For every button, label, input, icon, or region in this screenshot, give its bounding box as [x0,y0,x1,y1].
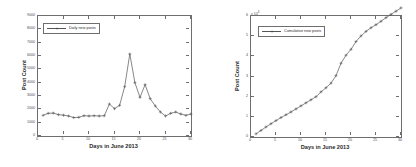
x-tick-label: 15 [112,137,116,141]
legend-cumulative[interactable]: + Cumulative new posts [258,26,325,37]
exponent-power: 4 [258,10,260,14]
y-tick-label: 0 [19,133,35,137]
y-axis-title-daily: Post Count [21,60,28,90]
legend-daily[interactable]: + Daily new posts [43,23,100,34]
legend-label-daily: Daily new posts [69,26,96,31]
x-tick-label: 10 [298,138,302,142]
chart-panel-cumulative-new-posts: 051015202530 0123456 x 104 Days in June … [208,0,416,167]
y-tick-label: 8000 [19,26,35,30]
x-tick-label: 25 [163,137,167,141]
y-tick-label: 1 [232,114,248,118]
x-tick-label: 25 [373,138,377,142]
exponent-base: x 10 [251,12,258,16]
legend-label-cumulative: Cumulative new posts [284,29,321,34]
y-tick-label: 2000 [19,106,35,110]
y-tick-label: 7000 [19,40,35,44]
y-tick-label: 6 [232,13,248,17]
x-tick-label: 5 [274,138,276,142]
y-tick-label: 1000 [19,120,35,124]
y-tick-label: 9000 [19,13,35,17]
x-axis-title-daily: Days in June 2013 [89,143,138,150]
x-tick-label: 20 [137,137,141,141]
y-tick-label: 3000 [19,93,35,97]
series-line-daily [38,16,191,136]
x-tick-label: 5 [62,137,64,141]
y-axis-title-cumulative: Post Count [234,61,241,91]
x-axis-title-cumulative: Days in June 2013 [301,144,350,151]
legend-line-marker-icon: + [262,28,281,35]
legend-line-marker-icon: + [47,25,66,32]
y-tick-label: 6000 [19,53,35,57]
x-tick-label: 15 [323,138,327,142]
x-tick-label: 30 [188,137,192,141]
x-tick-label: 10 [86,137,90,141]
x-tick-label: 30 [398,138,402,142]
x-tick-label: 0 [36,137,38,141]
chart-panel-daily-new-posts: 051015202530 010002000300040005000600070… [0,0,208,167]
y-tick-label: 5 [232,33,248,37]
x-tick-label: 0 [249,138,251,142]
y-axis-exponent-label: x 104 [251,10,259,16]
y-tick-label: 2 [232,94,248,98]
figure-two-panel-charts: 051015202530 010002000300040005000600070… [0,0,416,167]
y-tick-label: 4 [232,53,248,57]
y-tick-label: 0 [232,134,248,138]
x-tick-label: 20 [348,138,352,142]
